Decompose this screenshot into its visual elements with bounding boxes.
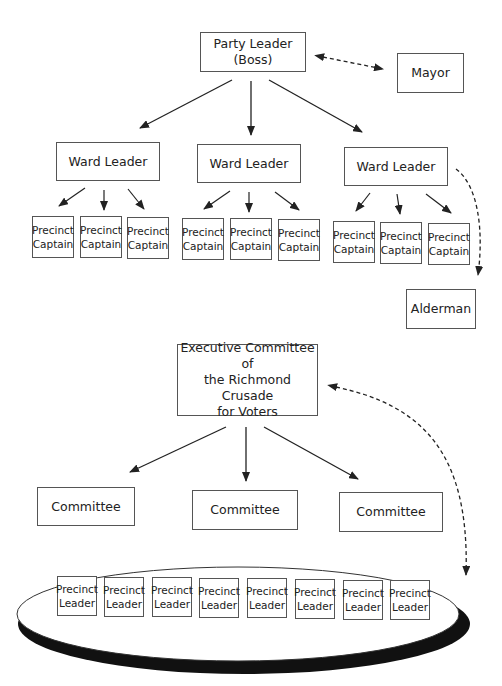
committee-label: Committee: [210, 502, 279, 518]
precinct-leader-label: PrecinctLeader: [342, 586, 384, 614]
precinct-captain-label: PrecinctCaptain: [182, 225, 224, 253]
mayor-label: Mayor: [411, 65, 450, 81]
ward-leader-box: Ward Leader: [56, 142, 160, 181]
precinct-leader-label: PrecinctLeader: [198, 584, 240, 612]
precinct-captain-label: PrecinctCaptain: [278, 226, 320, 254]
mayor-box: Mayor: [397, 53, 464, 93]
committee-label: Committee: [51, 499, 120, 515]
precinct-leader-box: PrecinctLeader: [343, 580, 383, 620]
precinct-leader-box: PrecinctLeader: [199, 578, 239, 618]
precinct-leader-label: PrecinctLeader: [389, 586, 431, 614]
ward-leader-label: Ward Leader: [69, 154, 148, 170]
precinct-captain-box: PrecinctCaptain: [127, 217, 169, 259]
precinct-leader-box: PrecinctLeader: [390, 580, 430, 620]
precinct-captain-box: PrecinctCaptain: [278, 219, 320, 261]
precinct-leader-box: PrecinctLeader: [247, 578, 287, 618]
precinct-leader-label: PrecinctLeader: [56, 582, 98, 610]
ward-leader-label: Ward Leader: [357, 159, 436, 175]
alderman-box: Alderman: [406, 289, 476, 329]
precinct-leader-box: PrecinctLeader: [152, 577, 192, 617]
precinct-leader-label: PrecinctLeader: [151, 583, 193, 611]
precinct-captain-box: PrecinctCaptain: [32, 216, 74, 258]
precinct-captain-label: PrecinctCaptain: [230, 225, 272, 253]
committee-box: Committee: [339, 492, 443, 532]
precinct-leader-label: PrecinctLeader: [103, 583, 145, 611]
executive-committee-label: Executive Committee of the Richmond Crus…: [178, 340, 317, 420]
committee-box: Committee: [37, 487, 135, 526]
committee-box: Committee: [192, 490, 298, 530]
precinct-captain-label: PrecinctCaptain: [127, 224, 169, 252]
precinct-captain-box: PrecinctCaptain: [80, 216, 122, 258]
precinct-captain-box: PrecinctCaptain: [380, 222, 422, 264]
precinct-leader-label: PrecinctLeader: [294, 585, 336, 613]
precinct-captain-box: PrecinctCaptain: [230, 218, 272, 260]
committee-label: Committee: [356, 504, 425, 520]
ward-leader-box: Ward Leader: [197, 144, 301, 183]
party-leader-label: Party Leader (Boss): [214, 36, 293, 68]
precinct-captain-label: PrecinctCaptain: [32, 223, 74, 251]
precinct-captain-label: PrecinctCaptain: [380, 229, 422, 257]
precinct-captain-box: PrecinctCaptain: [428, 223, 470, 265]
party-leader-box: Party Leader (Boss): [200, 32, 306, 72]
alderman-label: Alderman: [411, 301, 471, 317]
precinct-leader-box: PrecinctLeader: [104, 577, 144, 617]
precinct-captain-label: PrecinctCaptain: [333, 228, 375, 256]
executive-committee-box: Executive Committee of the Richmond Crus…: [177, 344, 318, 416]
precinct-leader-box: PrecinctLeader: [57, 576, 97, 616]
precinct-captain-box: PrecinctCaptain: [333, 221, 375, 263]
precinct-captain-label: PrecinctCaptain: [428, 230, 470, 258]
precinct-leader-label: PrecinctLeader: [246, 584, 288, 612]
ward-leader-label: Ward Leader: [210, 156, 289, 172]
precinct-captain-box: PrecinctCaptain: [182, 218, 224, 260]
precinct-leader-box: PrecinctLeader: [295, 579, 335, 619]
ward-leader-box: Ward Leader: [344, 147, 448, 186]
precinct-captain-label: PrecinctCaptain: [80, 223, 122, 251]
